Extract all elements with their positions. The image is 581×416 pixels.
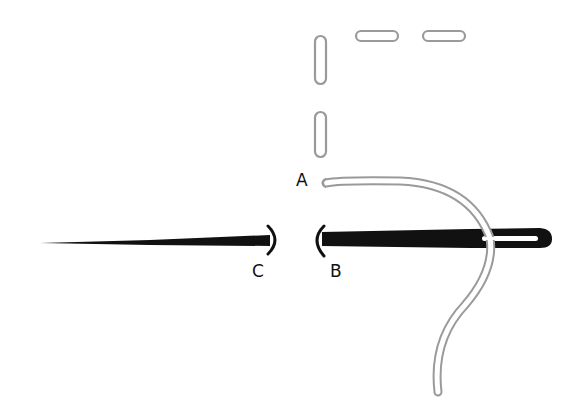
needle-point (40, 235, 270, 246)
needle-eye-thread (484, 237, 536, 240)
needle-eye-section (317, 226, 552, 256)
label-c: C (252, 261, 264, 281)
stitch-horizontal-1 (356, 31, 398, 41)
stitch-vertical-1 (315, 36, 326, 84)
thread (323, 179, 491, 393)
completed-stitches (315, 31, 465, 157)
label-b: B (330, 261, 342, 281)
backstitch-diagram: A B C (0, 0, 581, 416)
label-a: A (296, 170, 308, 190)
thread-outline (326, 181, 491, 392)
stitch-vertical-2 (315, 112, 326, 157)
needle-point-section (40, 226, 275, 254)
stitch-horizontal-2 (423, 31, 465, 41)
thread-fill (326, 181, 491, 392)
